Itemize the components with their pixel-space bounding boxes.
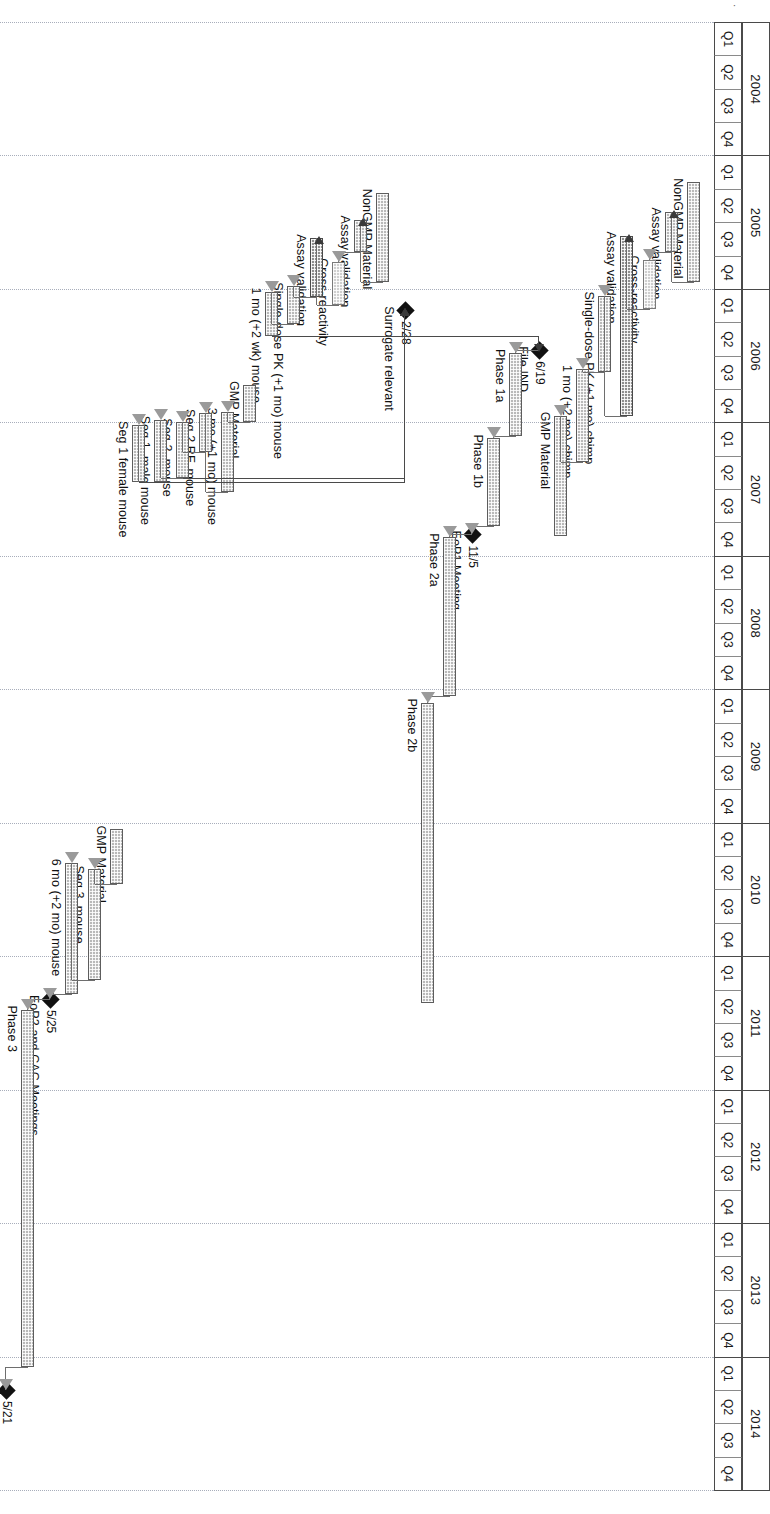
timeline-quarter-cell: Q4 — [714, 923, 742, 956]
dependency-link-vertical — [228, 422, 250, 423]
dependency-link-vertical — [72, 980, 94, 981]
cross-program-arrowhead — [400, 308, 410, 316]
timeline-quarter-cell: Q4 — [714, 122, 742, 155]
timeline-quarter-cell: Q3 — [714, 1023, 742, 1056]
timeline-quarter-cell: Q1 — [714, 1357, 742, 1390]
gantt-bar — [243, 385, 256, 422]
gantt-bar — [110, 829, 123, 884]
gantt-bar — [487, 438, 500, 526]
vertical-gridline — [0, 1090, 714, 1091]
timeline-quarter-cell: Q1 — [714, 689, 742, 722]
dependency-arrowhead — [465, 523, 479, 534]
dependency-link-horizontal — [671, 212, 672, 283]
vertical-gridline — [0, 823, 714, 824]
timeline-quarter-cell: Q2 — [714, 456, 742, 489]
dependency-link-vertical — [206, 492, 228, 493]
timeline-quarter-cell: Q4 — [714, 656, 742, 689]
timeline-year-cell: 2012 — [742, 1090, 770, 1223]
milestone-date-label: 5/21 — [0, 1401, 14, 1424]
timeline-quarter-cell: Q3 — [714, 1290, 742, 1323]
timeline-quarter-cell: Q1 — [714, 823, 742, 856]
timeline-quarter-cell: Q4 — [714, 1056, 742, 1089]
dependency-arrowhead — [287, 275, 301, 286]
gantt-bar — [687, 182, 700, 282]
milestone-date-label: 6/19 — [533, 361, 547, 384]
vertical-gridline — [0, 689, 714, 690]
timeline-quarter-cell: Q3 — [714, 1423, 742, 1456]
timeline-quarter-cell: Q2 — [714, 1123, 742, 1156]
timeline-year-cell: 2013 — [742, 1223, 770, 1356]
dependency-link-vertical — [317, 305, 339, 306]
dependency-link-horizontal — [182, 422, 183, 451]
milestone-date-label: 2/28 — [399, 321, 413, 344]
gantt-chart-page: CONFIDENTIAL 200420052006200720082009201… — [0, 0, 770, 1514]
timeline-quarter-cell: Q2 — [714, 55, 742, 88]
dependency-link-horizontal — [293, 286, 294, 297]
timeline-year-cell: 2007 — [742, 422, 770, 555]
dependency-link-vertical — [583, 372, 605, 373]
dependency-arrowhead — [487, 427, 501, 438]
gantt-task-label: GMP Material — [538, 412, 552, 489]
timeline-quarter-cell: Q2 — [714, 856, 742, 889]
timeline-year-cell: 2011 — [742, 956, 770, 1089]
dependency-link-horizontal — [316, 238, 317, 305]
dependency-link-vertical — [161, 478, 183, 479]
dependency-arrowhead — [624, 234, 634, 242]
dependency-arrowhead — [332, 251, 346, 262]
milestone-date-label: 5/25 — [44, 1010, 58, 1033]
vertical-gridline — [0, 422, 714, 423]
timeline-quarter-cell: Q2 — [714, 589, 742, 622]
gantt-task-label: Phase 1b — [471, 434, 485, 488]
dependency-link-horizontal — [271, 292, 272, 324]
vertical-gridline — [0, 956, 714, 957]
timeline-quarter-cell: Q1 — [714, 155, 742, 188]
cross-program-link-vertical — [161, 482, 405, 483]
dependency-arrowhead — [421, 692, 435, 703]
timeline-quarter-cell: Q2 — [714, 189, 742, 222]
timeline-quarter-cell: Q3 — [714, 756, 742, 789]
vertical-gridline — [0, 155, 714, 156]
vertical-gridline — [0, 22, 714, 23]
dependency-link-vertical — [294, 297, 316, 298]
gantt-task-label: Seg 1 female mouse — [116, 421, 130, 537]
timeline-quarter-cell: Q3 — [714, 489, 742, 522]
dependency-link-horizontal — [604, 296, 605, 416]
timeline-quarter-cell: Q1 — [714, 422, 742, 455]
dependency-link-vertical — [95, 884, 117, 885]
timeline-year-cell: 2005 — [742, 155, 770, 288]
timeline-quarter-cell: Q3 — [714, 356, 742, 389]
dependency-arrowhead — [265, 281, 279, 292]
timeline-quarter-cell: Q2 — [714, 1256, 742, 1289]
gantt-task-label: Surrogate relevant — [382, 306, 396, 411]
timeline-quarter-cell: Q4 — [714, 389, 742, 422]
dependency-link-vertical — [627, 309, 649, 310]
gantt-bar — [643, 260, 656, 309]
gantt-bar — [88, 869, 101, 980]
gantt-bar — [221, 412, 234, 492]
timeline-end-cap — [714, 1490, 770, 1491]
timeline-quarter-cell: Q4 — [714, 522, 742, 555]
gantt-bar — [421, 703, 434, 1003]
gantt-chart-canvas: CONFIDENTIAL 200420052006200720082009201… — [0, 0, 770, 1514]
dependency-link-horizontal — [94, 869, 95, 884]
timeline-quarter-cell: Q2 — [714, 1390, 742, 1423]
dependency-arrowhead — [199, 402, 213, 413]
dependency-arrowhead — [221, 401, 235, 412]
dependency-link-vertical — [272, 324, 294, 325]
dependency-link-horizontal — [227, 412, 228, 423]
timeline-year-cell: 2014 — [742, 1357, 770, 1490]
timeline-quarter-cell: Q1 — [714, 1223, 742, 1256]
dependency-arrowhead — [154, 409, 168, 420]
timeline-quarter-cell: Q1 — [714, 22, 742, 55]
timeline-quarter-cell: Q2 — [714, 723, 742, 756]
dependency-link-horizontal — [582, 369, 583, 372]
dependency-arrowhead — [21, 999, 35, 1010]
timeline-origin-tick: · — [729, 4, 740, 7]
dependency-arrowhead — [65, 852, 79, 863]
cross-program-arrowhead — [534, 344, 544, 352]
dependency-arrowhead — [576, 358, 590, 369]
dependency-link-vertical — [361, 282, 383, 283]
cross-program-link-vertical — [272, 336, 538, 337]
timeline-quarter-cell: Q4 — [714, 1190, 742, 1223]
dependency-link-horizontal — [160, 420, 161, 479]
